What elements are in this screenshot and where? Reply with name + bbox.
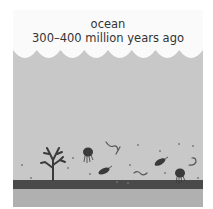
- sediment: [13, 189, 203, 207]
- diagram-title: ocean 300–400 million years ago: [13, 17, 203, 45]
- ocean-diagram: ocean 300–400 million years ago: [13, 10, 203, 207]
- title-line-2: 300–400 million years ago: [13, 31, 203, 45]
- water: [13, 50, 203, 185]
- seafloor: [13, 180, 203, 189]
- title-line-1: ocean: [13, 17, 203, 31]
